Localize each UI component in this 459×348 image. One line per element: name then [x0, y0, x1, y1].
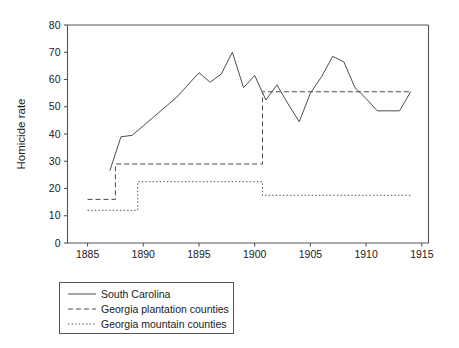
series-line-georgia-mountain-counties: [88, 182, 411, 211]
legend-label-georgia-plantation-counties: Georgia plantation counties: [101, 303, 229, 315]
y-tick-label: 20: [49, 182, 61, 194]
x-tick-label: 1900: [243, 248, 267, 260]
chart-svg: 01020304050607080 1885189018951900190519…: [0, 0, 459, 348]
y-tick-label: 30: [49, 155, 61, 167]
series-line-georgia-plantation-counties: [88, 92, 411, 200]
series-line-south-carolina: [110, 52, 411, 171]
y-axis-title: Homicide rate: [15, 99, 27, 170]
y-tick-label: 40: [49, 128, 61, 140]
plot-axes: [64, 25, 429, 247]
legend-label-south-carolina: South Carolina: [101, 288, 171, 300]
y-tick-label: 60: [49, 73, 61, 85]
x-axis-tick-labels: 1885189018951900190519101915: [76, 248, 434, 260]
x-tick-label: 1890: [132, 248, 156, 260]
x-tick-label: 1905: [299, 248, 323, 260]
chart-figure: 01020304050607080 1885189018951900190519…: [0, 0, 459, 348]
x-tick-label: 1885: [76, 248, 100, 260]
y-tick-label: 80: [49, 19, 61, 31]
x-tick-label: 1910: [354, 248, 378, 260]
y-tick-label: 0: [55, 237, 61, 249]
legend-swatches: [68, 294, 96, 324]
y-axis-tick-labels: 01020304050607080: [49, 19, 61, 249]
y-tick-label: 70: [49, 46, 61, 58]
x-tick-label: 1915: [410, 248, 434, 260]
plot-series: [88, 52, 411, 210]
x-tick-label: 1895: [187, 248, 211, 260]
y-tick-label: 10: [49, 209, 61, 221]
axis-lines: [68, 25, 429, 243]
chart-legend: South Carolina Georgia plantation counti…: [60, 283, 234, 334]
legend-label-georgia-mountain-counties: Georgia mountain counties: [101, 318, 227, 330]
y-tick-label: 50: [49, 100, 61, 112]
